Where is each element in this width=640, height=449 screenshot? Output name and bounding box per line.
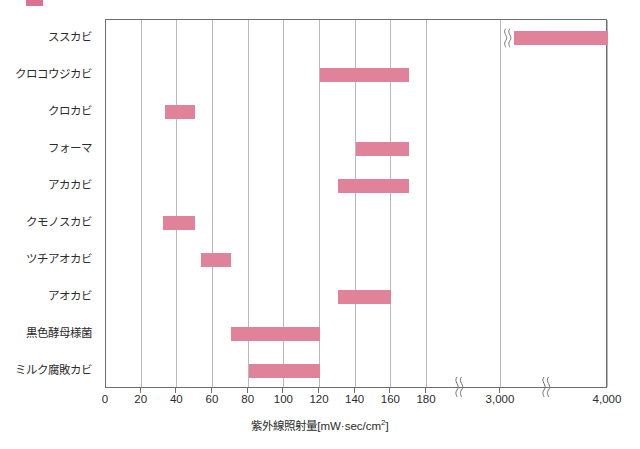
range-bar	[165, 105, 195, 119]
x-axis-tick-label: 3,000	[486, 393, 515, 405]
gridline	[141, 20, 142, 387]
uv-dose-range-chart: ススカビクロコウジカビクロカビフォーマアカカビクモノスカビツチアオカビアオカビ黒…	[0, 0, 640, 449]
range-bar	[338, 290, 392, 304]
legend-swatch-icon	[26, 0, 43, 6]
x-axis-title-main: 紫外線照射量	[251, 420, 317, 432]
range-bar	[249, 364, 320, 378]
x-axis-tick-label: 20	[134, 393, 147, 405]
bar-axis-break-icon	[501, 27, 514, 49]
gridline	[212, 20, 213, 387]
gridline	[607, 20, 608, 387]
x-axis-tick-label: 4,000	[593, 393, 622, 405]
gridline	[500, 20, 501, 387]
range-bar	[338, 179, 409, 193]
x-axis-tick-label: 180	[416, 393, 435, 405]
x-axis-tick-label: 120	[309, 393, 328, 405]
y-axis-tick-label: ツチアオカビ	[26, 252, 92, 266]
y-axis-tick-label: アオカビ	[48, 289, 92, 303]
x-axis-unit-open: [mW·sec/cm	[317, 420, 381, 432]
x-axis-tick-label: 60	[206, 393, 219, 405]
x-axis-tick-label: 100	[274, 393, 293, 405]
range-bar	[501, 31, 608, 45]
x-axis-break-icon	[452, 376, 466, 398]
x-axis-tick-label: 40	[170, 393, 183, 405]
y-axis-tick-label: 黒色酵母様菌	[26, 326, 92, 340]
range-bar	[163, 216, 195, 230]
y-axis-tick-label: ミルク腐敗カビ	[15, 363, 92, 377]
range-bar	[201, 253, 231, 267]
y-axis-tick-label: ススカビ	[48, 30, 92, 44]
range-bar	[320, 68, 409, 82]
y-axis-tick-label: クロコウジカビ	[15, 67, 92, 81]
gridline	[176, 20, 177, 387]
y-axis-tick-label: クモノスカビ	[26, 215, 92, 229]
legend	[0, 0, 640, 9]
plot-area	[105, 19, 607, 388]
y-axis-tick-label: クロカビ	[48, 104, 92, 118]
x-axis-unit-close: ]	[386, 420, 389, 432]
x-axis-break-icon	[539, 376, 553, 398]
x-axis-tick-label: 0	[102, 393, 108, 405]
x-axis-tick-label: 80	[241, 393, 254, 405]
range-bar	[356, 142, 410, 156]
range-bar	[231, 327, 320, 341]
y-axis-labels: ススカビクロコウジカビクロカビフォーマアカカビクモノスカビツチアオカビアオカビ黒…	[0, 19, 100, 388]
y-axis-tick-label: フォーマ	[48, 141, 92, 155]
y-axis-tick-label: アカカビ	[48, 178, 92, 192]
gridline	[426, 20, 427, 387]
x-axis-tick-label: 160	[381, 393, 400, 405]
x-axis-tick-label: 140	[345, 393, 364, 405]
x-axis-title: 紫外線照射量[mW·sec/cm2]	[0, 417, 640, 433]
